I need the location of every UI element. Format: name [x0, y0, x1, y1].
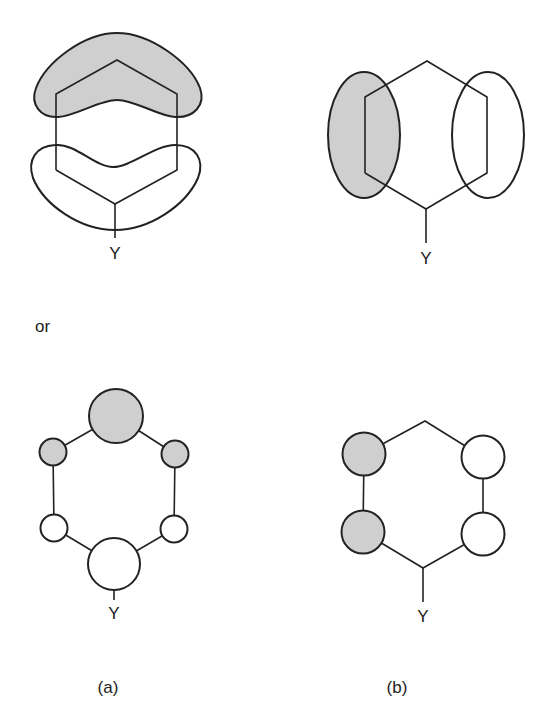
substituent-label: Y: [109, 244, 120, 263]
panel-b-atoms: Y: [342, 421, 505, 626]
orbital-lower-right-small-open: [161, 516, 188, 543]
substituent-label: Y: [417, 607, 428, 626]
orbital-upper-right-open: [462, 436, 505, 479]
separator-or: or: [35, 317, 50, 336]
panel-b-lobes: Y: [328, 61, 524, 268]
substituent-label: Y: [420, 249, 431, 268]
substituent-label: Y: [108, 604, 119, 623]
orbital-lower-right-open: [462, 513, 505, 556]
orbital-lower-left-small-open: [41, 515, 68, 542]
orbital-diagram-figure: Y Y or Y Y (a) (b): [0, 0, 552, 716]
orbital-upper-left-small-shaded: [40, 439, 67, 466]
caption-a: (a): [98, 678, 119, 697]
orbital-bottom-large-open: [88, 538, 140, 590]
panel-a-lobes: Y: [31, 33, 201, 263]
panel-a-atoms: Y: [40, 389, 189, 623]
orbital-top-large-shaded: [89, 389, 143, 443]
right-lobe-open: [452, 72, 524, 198]
left-lobe-shaded: [328, 72, 400, 198]
orbital-upper-right-small-shaded: [162, 441, 189, 468]
caption-b: (b): [387, 678, 408, 697]
orbital-lower-left-shaded: [342, 511, 385, 554]
orbital-upper-left-shaded: [343, 433, 386, 476]
